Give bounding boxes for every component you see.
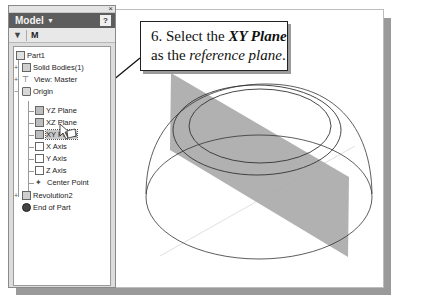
instruction-callout: 6. Select the XY Plane as the reference …	[140, 21, 288, 71]
callout-step-text: 6. Select the	[151, 28, 228, 44]
callout-emphasis: XY Plane	[228, 28, 286, 44]
callout-line-1: 6. Select the XY Plane	[151, 27, 287, 46]
callout-line-2: as the reference plane.	[151, 46, 287, 65]
select-plane-cursor-icon	[67, 129, 76, 138]
callout-suffix: .	[282, 47, 286, 63]
callout-italic: reference plane	[189, 47, 282, 63]
callout-prefix: as the	[151, 47, 189, 63]
